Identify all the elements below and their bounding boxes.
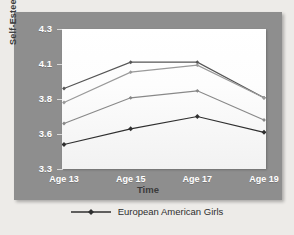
series-marker (129, 70, 133, 74)
series-marker (62, 122, 66, 126)
y-axis-tick-label: 3.3 (20, 163, 52, 174)
y-axis-tick-label: 4.3 (20, 23, 52, 34)
figure-container: Self-Esteem 4.34.13.83.63.3 Age 13Age 15… (0, 0, 294, 235)
series-marker (62, 142, 66, 147)
legend-line-marker-icon (71, 207, 111, 217)
series-line (64, 65, 264, 102)
series-line (64, 91, 264, 124)
series-marker (129, 60, 133, 64)
series-marker (195, 114, 200, 119)
x-axis-label: Time (14, 184, 282, 195)
series-line (64, 62, 264, 98)
y-axis-tick-label: 3.8 (20, 93, 52, 104)
data-series (62, 89, 266, 125)
chart-panel: Self-Esteem 4.34.13.83.63.3 Age 13Age 15… (14, 12, 282, 200)
y-axis-tick-label: 4.1 (20, 58, 52, 69)
plot-area (62, 29, 266, 169)
series-marker (128, 126, 133, 131)
data-series (62, 63, 266, 104)
y-axis-tick-label: 3.6 (20, 128, 52, 139)
y-axis-tick-mark (57, 169, 63, 170)
series-marker (262, 118, 266, 122)
series-lines-svg (62, 29, 266, 169)
series-marker (62, 101, 66, 105)
series-marker (129, 96, 133, 100)
series-marker (62, 87, 66, 91)
series-marker (262, 130, 266, 135)
series-line (64, 117, 264, 145)
y-axis-label: Self-Esteem (8, 0, 18, 68)
x-axis-tick-label: Age 19 (238, 174, 290, 184)
legend-diamond-icon (88, 209, 94, 215)
legend-entry-label: European American Girls (118, 206, 224, 217)
x-axis-tick-label: Age 13 (38, 174, 90, 184)
series-marker (195, 89, 199, 93)
data-series (62, 114, 266, 147)
x-axis-tick-label: Age 15 (105, 174, 157, 184)
chart-legend: European American Girls (0, 206, 294, 217)
x-axis-tick-label: Age 17 (171, 174, 223, 184)
